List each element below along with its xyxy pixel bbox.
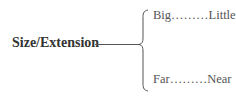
curly-brace bbox=[139, 10, 148, 91]
branch-far-near: Far………Near bbox=[153, 72, 231, 87]
branch-big-little: Big………Little bbox=[153, 8, 236, 23]
